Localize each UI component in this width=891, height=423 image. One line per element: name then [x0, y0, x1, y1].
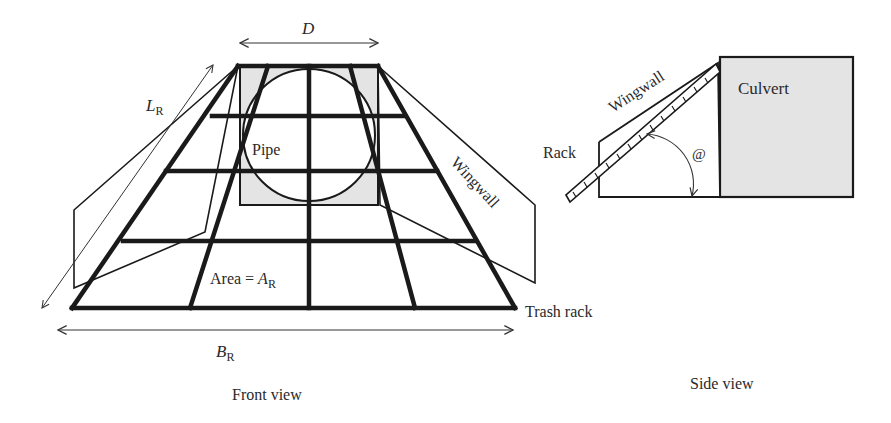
culvert-box — [720, 57, 853, 197]
trash-rack-diagram: D LR BR Pipe Area = AR Wingwall Trash ra… — [0, 0, 891, 423]
angle-label: @ — [692, 146, 706, 162]
side-view: @ Rack Wingwall Culvert Side view — [543, 57, 853, 392]
rack-label: Rack — [543, 144, 576, 161]
front-view: D LR BR Pipe Area = AR Wingwall Trash ra… — [42, 19, 592, 403]
pipe-label: Pipe — [252, 141, 280, 159]
dim-br-label: BR — [216, 342, 234, 364]
dim-lr-label: LR — [145, 96, 163, 118]
trash-rack-label: Trash rack — [525, 303, 592, 320]
front-view-caption: Front view — [232, 386, 302, 403]
culvert-label: Culvert — [738, 79, 789, 98]
area-label: Area = AR — [210, 270, 276, 291]
side-view-caption: Side view — [690, 375, 754, 392]
dim-d-label: D — [301, 19, 315, 38]
